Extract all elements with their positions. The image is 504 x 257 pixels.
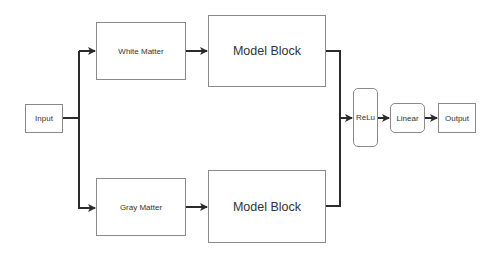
- relu-node: ReLu: [353, 88, 378, 147]
- output-label: Output: [445, 114, 469, 123]
- input-label: Input: [35, 114, 53, 123]
- linear-label: Linear: [396, 114, 418, 123]
- model-block-bottom-node: Model Block: [208, 170, 326, 243]
- gray-matter-label: Gray Matter: [120, 203, 162, 212]
- model-block-bottom-label: Model Block: [233, 200, 301, 214]
- white-matter-label: White Matter: [118, 47, 163, 56]
- output-node: Output: [438, 103, 476, 133]
- gray-matter-node: Gray Matter: [96, 178, 186, 236]
- input-node: Input: [25, 104, 63, 133]
- model-block-top-node: Model Block: [208, 15, 326, 87]
- linear-node: Linear: [390, 103, 425, 133]
- white-matter-node: White Matter: [96, 22, 186, 80]
- relu-label: ReLu: [356, 113, 375, 122]
- model-block-top-label: Model Block: [233, 44, 301, 58]
